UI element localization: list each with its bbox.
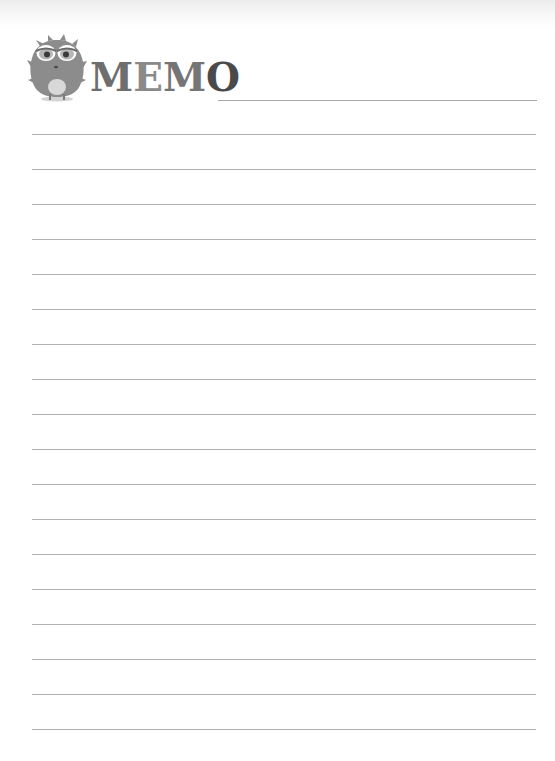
memo-title: MEMO bbox=[90, 58, 240, 97]
memo-header: MEMO bbox=[26, 34, 546, 104]
ruled-line[interactable] bbox=[32, 239, 536, 274]
title-letter: E bbox=[133, 54, 163, 100]
fuzzy-monster-icon bbox=[26, 34, 88, 102]
top-shadow bbox=[0, 0, 555, 30]
ruled-lines bbox=[32, 134, 536, 761]
ruled-line[interactable] bbox=[32, 309, 536, 344]
ruled-line[interactable] bbox=[32, 519, 536, 554]
ruled-line[interactable] bbox=[32, 729, 536, 761]
ruled-line[interactable] bbox=[32, 344, 536, 379]
ruled-line[interactable] bbox=[32, 379, 536, 414]
ruled-line[interactable] bbox=[32, 554, 536, 589]
title-letter: O bbox=[206, 54, 240, 100]
ruled-line[interactable] bbox=[32, 694, 536, 729]
title-underline bbox=[218, 100, 537, 101]
ruled-line[interactable] bbox=[32, 204, 536, 239]
ruled-line[interactable] bbox=[32, 274, 536, 309]
title-letter: M bbox=[163, 54, 206, 100]
ruled-line[interactable] bbox=[32, 484, 536, 519]
title-letter: M bbox=[90, 54, 133, 100]
ruled-line[interactable] bbox=[32, 624, 536, 659]
ruled-line[interactable] bbox=[32, 134, 536, 169]
ruled-line[interactable] bbox=[32, 169, 536, 204]
ruled-line[interactable] bbox=[32, 414, 536, 449]
ruled-line[interactable] bbox=[32, 449, 536, 484]
ruled-line[interactable] bbox=[32, 589, 536, 624]
ruled-line[interactable] bbox=[32, 659, 536, 694]
